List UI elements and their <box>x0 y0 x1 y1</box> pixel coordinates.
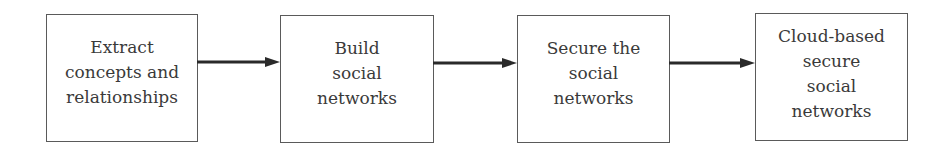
step-build-networks-box: Build social networks <box>280 15 434 143</box>
step-secure-networks-box: Secure the social networks <box>517 15 670 143</box>
step-label: Cloud-based secure social networks <box>778 24 885 124</box>
step-label: Secure the social networks <box>547 36 641 111</box>
step-label: Build social networks <box>317 36 397 111</box>
arrow-right-icon <box>669 58 755 68</box>
arrow-right-icon <box>197 57 280 67</box>
arrow-right-icon <box>433 58 517 68</box>
step-cloud-secure-networks-box: Cloud-based secure social networks <box>755 13 908 141</box>
step-label: Extract concepts and relationships <box>65 35 179 110</box>
step-extract-concepts-box: Extract concepts and relationships <box>46 14 198 142</box>
